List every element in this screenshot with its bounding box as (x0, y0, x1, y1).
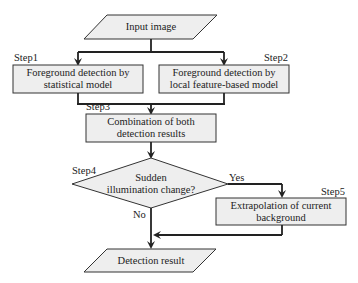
no-label: No (133, 209, 146, 221)
input-image-label: Input image (95, 15, 207, 39)
step3-text: Combination of both detection results (86, 114, 216, 142)
detection-result-label: Detection result (95, 249, 207, 272)
step5-label: Step5 (321, 186, 345, 198)
step5-line1: Extrapolation of current (231, 200, 332, 212)
step4-text: Sudden illumination change? (96, 170, 206, 198)
step4-label: Step4 (72, 165, 96, 177)
step3-label: Step3 (86, 101, 110, 113)
step2-line2: local feature-based model (170, 79, 278, 91)
input-image-text: Input image (126, 21, 176, 33)
step2-label: Step2 (264, 52, 288, 64)
step5-line2: background (256, 212, 306, 224)
step1-label: Step1 (14, 52, 38, 64)
detection-result-text: Detection result (118, 255, 185, 267)
step4-line1: Sudden (135, 172, 167, 184)
step2-line1: Foreground detection by (172, 67, 275, 79)
step3-line2: detection results (117, 128, 186, 140)
step5-text: Extrapolation of current background (216, 198, 346, 225)
step2-text: Foreground detection by local feature-ba… (159, 65, 289, 93)
step3-line1: Combination of both (107, 116, 195, 128)
step4-line2: illumination change? (107, 184, 195, 196)
yes-label: Yes (229, 172, 244, 184)
step1-text: Foreground detection by statistical mode… (13, 65, 143, 93)
step1-line2: statistical model (44, 79, 113, 91)
step1-line1: Foreground detection by (26, 67, 129, 79)
